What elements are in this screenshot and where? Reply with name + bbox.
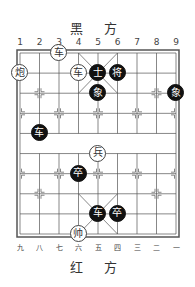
red-piece[interactable]: 兵 [89,145,106,162]
black-piece[interactable]: 车 [89,205,106,222]
black-piece[interactable]: 卒 [70,165,87,182]
black-piece[interactable]: 车 [31,124,48,141]
red-piece[interactable]: 车 [50,44,67,61]
column-label: 五 [91,242,105,252]
red-side-label: 红 方 [0,257,195,276]
column-label: 四 [111,242,125,252]
red-piece[interactable]: 车 [70,64,87,81]
column-label: 七 [52,242,66,252]
column-label: 九 [13,242,27,252]
column-label: 二 [150,242,164,252]
column-label: 六 [72,242,86,252]
black-piece[interactable]: 将 [109,64,126,81]
red-piece[interactable]: 帅 [70,225,87,242]
red-piece[interactable]: 炮 [11,64,28,81]
column-label: 一 [169,242,183,252]
column-label: 八 [33,242,47,252]
column-label: 三 [130,242,144,252]
black-piece[interactable]: 卒 [109,205,126,222]
black-piece[interactable]: 士 [89,64,106,81]
